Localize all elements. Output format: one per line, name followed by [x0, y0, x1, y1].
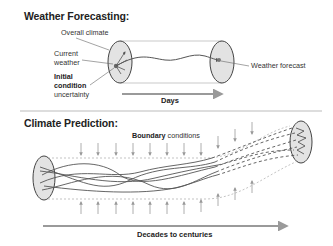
weather-title: Weather Forecasting: — [24, 10, 129, 22]
final-climate-ellipse — [290, 121, 312, 163]
decades-label: Decades to centuries — [137, 230, 212, 239]
uncertain-trajectories — [212, 128, 298, 175]
pointer-initial-condition — [90, 68, 114, 85]
label-overall-climate: Overall climate — [61, 29, 109, 38]
boundary-conditions-label: Boundary conditions — [132, 132, 200, 141]
climate-title: Climate Prediction: — [24, 117, 118, 129]
boundary-bold: Boundary — [132, 131, 166, 140]
forecast-point — [217, 58, 221, 62]
initial-state-ellipse — [108, 41, 132, 83]
forecast-state-ellipse — [210, 41, 234, 83]
days-label: Days — [161, 96, 179, 105]
initial-climate-ellipse — [33, 156, 55, 200]
label-weather-forecast: Weather forecast — [251, 62, 306, 71]
label-uncertainty: uncertainty — [54, 91, 89, 100]
label-current-weather-2: weather — [54, 59, 80, 68]
boundary-rest: conditions — [166, 131, 200, 140]
pointer-overall-climate — [76, 38, 109, 50]
climate-trajectories — [40, 158, 218, 192]
weather-diagram — [76, 38, 249, 94]
